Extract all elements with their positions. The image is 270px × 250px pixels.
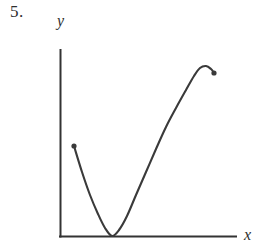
function-curve (74, 66, 214, 236)
problem-number: 5. (10, 2, 24, 22)
right-endpoint-dot (211, 70, 216, 75)
figure-container: 5. y x (0, 0, 270, 250)
left-endpoint-dot (71, 143, 76, 148)
y-axis-label: y (57, 12, 64, 30)
function-graph-figure (0, 0, 270, 250)
x-axis-label: x (244, 226, 251, 244)
